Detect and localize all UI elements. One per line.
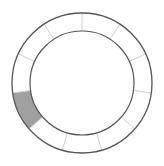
inner-circle [30, 31, 134, 135]
ring-segments [12, 13, 152, 153]
segmented-ring [0, 0, 164, 166]
ring-segment [62, 133, 101, 153]
